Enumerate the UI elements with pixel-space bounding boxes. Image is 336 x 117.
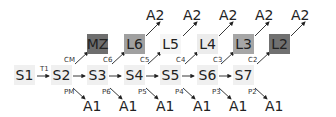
level-node-mz: MZ (87, 34, 108, 54)
state-node-s2: S2 (51, 65, 72, 85)
edge-label-p5: P5 (138, 89, 147, 96)
edge-label-p4: P4 (175, 89, 184, 96)
edge-label-pm: PM (64, 89, 74, 96)
arrow-line (255, 22, 269, 36)
state-node-s1: S1 (14, 65, 35, 85)
a2-label: A2 (146, 8, 164, 22)
arrow-line (219, 22, 233, 36)
edge-label-t1: T1 (40, 66, 49, 73)
level-node-l3: L3 (233, 34, 254, 54)
edge-label-p3: P3 (212, 89, 221, 96)
a1-label: A1 (193, 99, 211, 113)
a2-label: A2 (219, 8, 237, 22)
state-node-s5: S5 (160, 65, 181, 85)
edge-label-p6: P6 (102, 89, 111, 96)
a2-label: A2 (183, 8, 201, 22)
state-node-s4: S4 (124, 65, 145, 85)
arrow-line (146, 22, 160, 36)
level-node-l5: L5 (160, 34, 181, 54)
arrow-line (291, 22, 305, 36)
a2-label: A2 (291, 8, 309, 22)
a1-label: A1 (265, 99, 283, 113)
edge-label-cm: CM (64, 57, 75, 64)
a1-label: A1 (83, 99, 101, 113)
a1-label: A1 (156, 99, 174, 113)
a1-label: A1 (229, 99, 247, 113)
edge-label-c2: C2 (248, 57, 257, 64)
level-node-l6: L6 (124, 34, 145, 54)
state-node-s3: S3 (87, 65, 108, 85)
a1-label: A1 (119, 99, 137, 113)
level-node-l2: L2 (269, 34, 290, 54)
edge-label-c5: C5 (140, 57, 149, 64)
a2-label: A2 (255, 8, 273, 22)
edge-label-p2: P2 (248, 89, 257, 96)
level-node-l4: L4 (197, 34, 218, 54)
state-diagram: S1S2S3S4S5S6S7 MZL6L5L4L3L2 A2A2A2A2A2 A… (0, 0, 336, 117)
edge-label-c6: C6 (103, 57, 112, 64)
arrow-line (183, 22, 197, 36)
edge-label-c3: C3 (213, 57, 222, 64)
state-node-s7: S7 (233, 65, 254, 85)
state-node-s6: S6 (197, 65, 218, 85)
edge-label-c4: C4 (176, 57, 185, 64)
